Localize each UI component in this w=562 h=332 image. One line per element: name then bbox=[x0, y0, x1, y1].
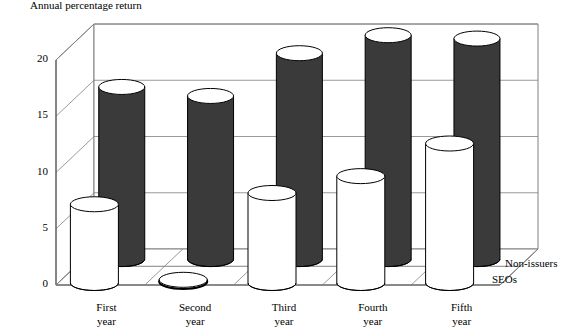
y-axis-tick-20: 20 bbox=[26, 52, 48, 64]
y-axis-tick-5: 5 bbox=[26, 221, 48, 233]
bar-seos-0 bbox=[70, 197, 118, 291]
chart-figure: Annual percentage return Non-issuers SEO… bbox=[0, 0, 562, 332]
bar-non-issuers-1 bbox=[188, 88, 234, 266]
x-axis-category-1: Firstyear bbox=[61, 300, 151, 328]
y-axis-tick-10: 10 bbox=[26, 165, 48, 177]
bar-chart-3d bbox=[0, 0, 562, 332]
y-axis-tick-0: 0 bbox=[26, 277, 48, 289]
legend-label-seos: SEOs bbox=[492, 273, 517, 285]
bar-seos-3 bbox=[337, 169, 385, 291]
x-axis-category-3: Thirdyear bbox=[239, 300, 329, 328]
x-axis-category-4: Fourthyear bbox=[328, 300, 418, 328]
bar-seos-1 bbox=[159, 272, 207, 289]
x-axis-category-2: Secondyear bbox=[150, 300, 240, 328]
legend-label-non-issuers: Non-issuers bbox=[505, 257, 558, 269]
bar-seos-4 bbox=[426, 136, 474, 291]
bar-seos-2 bbox=[248, 186, 296, 291]
x-axis-category-5: Fifthyear bbox=[417, 300, 507, 328]
y-axis-tick-15: 15 bbox=[26, 108, 48, 120]
